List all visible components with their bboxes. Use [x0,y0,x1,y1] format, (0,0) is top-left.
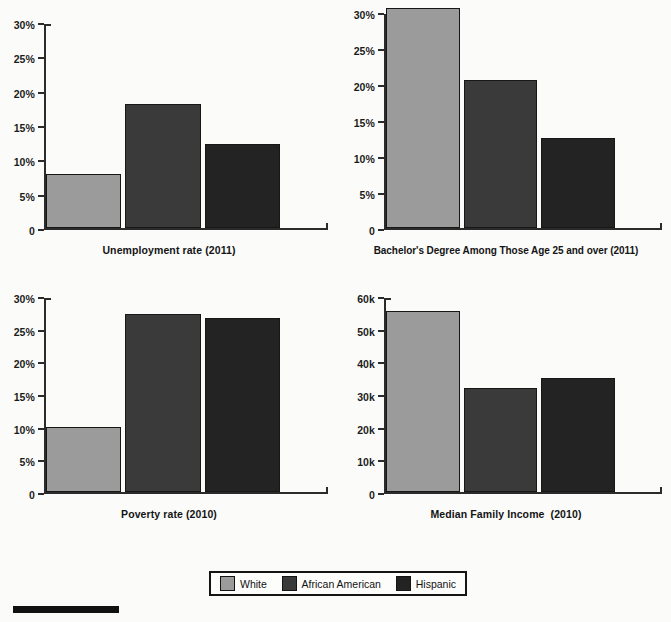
chart-legend: WhiteAfrican AmericanHispanic [209,571,467,596]
y-tick-label: 20% [14,88,35,100]
x-axis-line [44,492,328,494]
y-tick-label: 20k [357,424,375,436]
plot-area: 010k20k30k40k50k60k [384,298,662,494]
y-tick [378,85,384,87]
y-tick-label: 0 [369,225,375,237]
y-tick [38,23,44,25]
panel-title: Bachelor's Degree Among Those Age 25 and… [344,245,668,256]
plot-area: 05%10%15%20%25%30% [44,298,328,494]
y-tick-label: 25% [14,326,35,338]
x-axis-line [384,228,662,230]
legend-swatch-icon [220,576,235,591]
y-tick-label: 30% [354,9,375,21]
y-tick-label: 15% [354,117,375,129]
y-tick-label: 30k [357,391,375,403]
y-tick-label: 5% [360,189,375,201]
y-tick-label: 20% [14,358,35,370]
chart-panel-unemployment: 05%10%15%20%25%30% Unemployment rate (20… [4,18,334,268]
y-tick [38,428,44,430]
y-tick-label: 25% [14,53,35,65]
bar-series [46,24,328,228]
y-tick-label: 60k [357,293,375,305]
y-tick-label: 10% [354,153,375,165]
y-tick [38,395,44,397]
bar-hispanic [205,318,280,492]
bar-hispanic [541,378,615,492]
legend-swatch-icon [396,576,411,591]
y-tick-label: 0 [369,489,375,501]
chart-panel-grid: 05%10%15%20%25%30% Unemployment rate (20… [0,0,671,560]
y-tick [38,493,44,495]
y-tick [38,460,44,462]
bar-african-american [464,80,538,228]
y-tick [378,13,384,15]
y-tick-label: 5% [20,456,35,468]
y-tick [38,126,44,128]
y-tick [38,160,44,162]
chart-panel-bachelors-degree: 05%10%15%20%25%30% Bachelor's Degree Amo… [344,8,668,268]
bar-african-american [464,388,538,492]
bar-hispanic [541,138,615,228]
chart-panel-median-family-income: 010k20k30k40k50k60k Median Family Income… [344,292,668,532]
legend-item: Hispanic [396,576,456,591]
legend-label: White [240,578,267,590]
legend-item: White [220,576,267,591]
x-axis-line [384,492,662,494]
y-tick [38,57,44,59]
panel-title: Median Family Income (2010) [344,508,668,520]
bar-series [386,298,662,492]
y-tick [378,49,384,51]
y-tick [38,330,44,332]
x-axis-line [44,228,328,230]
y-tick [378,395,384,397]
y-tick [38,195,44,197]
y-tick-label: 0 [29,225,35,237]
bar-african-american [125,104,200,228]
y-tick-label: 5% [20,191,35,203]
y-tick [378,193,384,195]
plot-area: 05%10%15%20%25%30% [384,14,662,230]
legend-swatch-icon [282,576,297,591]
y-tick-label: 10% [14,424,35,436]
y-tick-label: 0 [29,489,35,501]
y-tick [378,493,384,495]
y-tick [378,428,384,430]
bar-series [46,298,328,492]
bar-series [386,14,662,228]
y-tick-label: 10k [357,456,375,468]
bar-white [46,174,121,228]
y-tick [378,330,384,332]
y-tick [378,157,384,159]
y-tick [378,229,384,231]
y-tick-label: 50k [357,326,375,338]
panel-title: Unemployment rate (2011) [4,244,334,256]
bar-hispanic [205,144,280,228]
y-tick-label: 20% [354,81,375,93]
y-tick-label: 30% [14,19,35,31]
y-tick [38,362,44,364]
panel-title: Poverty rate (2010) [4,508,334,520]
plot-area: 05%10%15%20%25%30% [44,24,328,230]
bar-white [386,311,460,492]
bar-white [386,8,460,228]
y-tick-label: 15% [14,391,35,403]
bar-white [46,427,121,492]
y-tick-label: 40k [357,358,375,370]
y-tick-label: 25% [354,45,375,57]
chart-panel-poverty-rate: 05%10%15%20%25%30% Poverty rate (2010) [4,292,334,532]
y-tick [378,121,384,123]
y-tick [38,92,44,94]
y-tick-label: 15% [14,122,35,134]
y-tick [38,229,44,231]
legend-item: African American [282,576,381,591]
y-tick [378,362,384,364]
bottom-rule [13,606,119,613]
y-tick [378,460,384,462]
y-tick [378,297,384,299]
bar-african-american [125,314,200,492]
y-tick-label: 10% [14,156,35,168]
legend-label: African American [302,578,381,590]
y-tick [38,297,44,299]
legend-label: Hispanic [416,578,456,590]
y-tick-label: 30% [14,293,35,305]
